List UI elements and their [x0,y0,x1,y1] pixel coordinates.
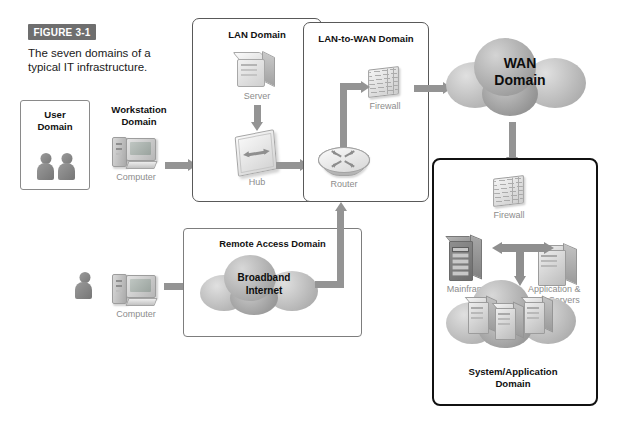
arrow-shaft-horizontal [340,83,362,90]
sysapp-firewall-icon [492,176,526,208]
lanwan-router-label: Router [314,179,374,189]
system-application-domain-title: System/Application Domain [432,366,594,390]
server-slots [527,307,539,309]
arrow-head-right [544,242,554,254]
sysapp-cross-arrow [492,238,554,286]
server-slots [471,307,483,309]
router-arrows-icon [331,152,355,166]
remote-computer-icon [112,272,160,308]
broadband-internet-label: Broadband Internet [200,271,328,297]
arrow-head [251,122,263,131]
sysapp-title-line1: System/Application [432,366,594,378]
arrow-shaft [276,162,301,169]
user-person-icon-2 [58,153,75,180]
workstation-computer-label: Computer [112,172,160,182]
remote-computer-label: Computer [112,309,160,319]
computer-keyboard [125,161,157,169]
firewall-brick-wall [493,175,524,207]
figure-caption: The seven domains of a typical IT infras… [28,46,178,74]
workstation-domain-title: Workstation Domain [95,104,183,128]
computer-monitor [126,275,156,298]
lan-server-icon [235,51,279,87]
computer-monitor [126,138,156,161]
arrow-shaft-vertical [340,83,347,147]
mainframe-slots [452,247,469,252]
server-slots [498,313,510,315]
arrow-router-to-firewall [340,77,376,147]
sysapp-title-line2: Domain [432,378,594,390]
computer-tower [112,137,127,167]
person-body [75,282,92,299]
arrow-server-to-hub [251,105,263,131]
arrow-shaft [509,122,516,157]
lan-hub-label: Hub [225,177,289,187]
lanwan-router-icon [318,145,370,179]
lan-server-label: Server [225,91,289,101]
computer-tower [112,274,127,304]
wan-domain-label-line2: Domain [446,72,594,89]
sysapp-server-icon-2 [495,302,525,340]
sysapp-firewall-label: Firewall [478,210,540,220]
arrow-head-right [263,148,270,155]
user-person-icon-1 [37,153,54,180]
workstation-domain-title-line1: Workstation [95,104,183,116]
server-slots [241,64,257,66]
arrow-shaft-vertical [337,210,344,288]
remote-user-person-icon [75,272,95,300]
workstation-domain-title-line2: Domain [95,116,183,128]
wan-domain-label: WAN Domain [446,55,594,89]
mainframe-icon [448,236,484,282]
sysapp-server-icon-3 [524,296,554,334]
broadband-label-line1: Broadband [200,271,328,284]
lan-to-wan-domain-box: LAN-to-WAN Domain Firewall Router [303,22,429,202]
arrow-shaft-vertical [516,244,524,277]
broadband-label-line2: Internet [200,284,328,297]
lan-domain-title: LAN Domain [193,29,321,40]
arrow-head [361,81,370,93]
lan-to-wan-domain-title: LAN-to-WAN Domain [304,33,428,44]
router-arrow-head [329,150,337,158]
arrow-remote-to-router [333,202,369,288]
user-domain-title-line2: Domain [21,121,89,133]
lan-hub-icon [234,131,280,175]
user-domain-title: User Domain [21,109,89,133]
arrow-shaft [165,162,189,169]
person-body [58,163,75,180]
person-body [37,163,54,180]
wan-domain-label-line1: WAN [446,55,594,72]
user-domain-title-line1: User [21,109,89,121]
workstation-computer-icon [112,135,160,171]
sysapp-server-icon-1 [468,296,498,334]
computer-keyboard [125,298,157,306]
figure-number-badge: FIGURE 3-1 [28,24,96,40]
arrow-head-left [492,242,502,254]
figure-number-text: FIGURE 3-1 [33,27,90,38]
user-domain-box: User Domain [20,100,90,190]
arrow-head [335,202,347,211]
arrow-shaft [414,85,444,92]
